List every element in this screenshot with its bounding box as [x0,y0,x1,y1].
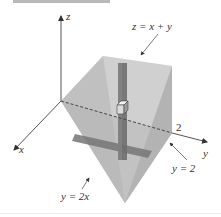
label-side-plane: y = 2 [172,163,195,174]
bottom-divider [0,213,221,214]
label-top-plane: z = x + y [132,21,172,32]
label-slanted-plane: y = 2x [61,191,89,202]
z-axis-label: z [66,11,70,22]
y-axis [172,133,207,142]
leader-side-plane [170,143,187,160]
volume-element-cube [117,105,124,114]
leader-top-plane [141,34,158,55]
y-axis-label: y [203,148,208,159]
leader-slanted-plane [82,178,89,189]
y-tick-2: 2 [176,122,182,133]
x-axis-label: x [19,144,24,155]
triple-integral-region-diagram: z x y 2 z = x + y y = 2x y = 2 [0,0,221,217]
diagram-canvas [0,0,221,217]
